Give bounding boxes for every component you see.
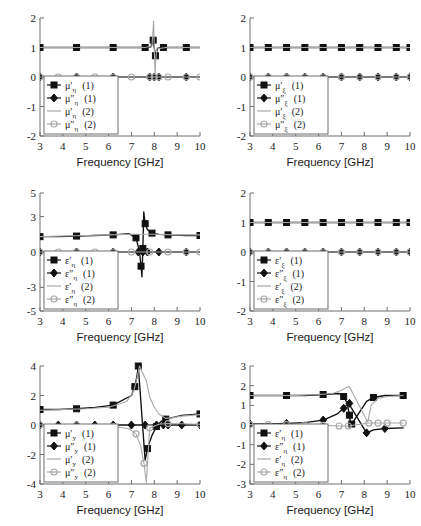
y-tick-label: -4 (27, 478, 37, 490)
y-tick-label: -1 (237, 101, 246, 113)
data-marker-square (370, 394, 376, 400)
data-marker-square (261, 82, 267, 88)
panel-2: 530-3-5345678910Frequency [GHz]ε′η(1)ε″η… (6, 183, 205, 351)
x-tick-label: 5 (293, 315, 299, 327)
y-tick-label: 2 (31, 12, 37, 24)
x-tick-label: 5 (83, 315, 89, 327)
y-tick-label: -2 (27, 130, 36, 142)
x-tick-label: 3 (247, 140, 253, 152)
y-tick-label: 5 (31, 187, 37, 199)
data-marker-square (341, 393, 347, 399)
y-tick-label: -1 (27, 101, 36, 113)
y-tick-label: 1 (241, 217, 247, 229)
data-marker-square (142, 221, 148, 227)
x-tick-label: 8 (362, 315, 368, 327)
x-axis-label: Frequency [GHz] (287, 504, 374, 516)
data-marker-diamond (128, 421, 135, 429)
data-marker-square (346, 412, 352, 418)
data-marker-square (150, 37, 156, 43)
panel-3: 210-1-2345678910Frequency [GHz]ε′ξ(1)ε″ξ… (216, 183, 415, 351)
x-tick-label: 3 (37, 140, 43, 152)
x-tick-label: 9 (174, 140, 180, 152)
data-marker-diamond (178, 421, 185, 429)
panel-eps-eta-mid-left: 530-3-5345678910Frequency [GHz]ε′η(1)ε″η… (6, 183, 205, 351)
data-marker-square (37, 407, 43, 413)
x-tick-label: 3 (37, 488, 43, 500)
x-tick-label: 4 (270, 140, 276, 152)
data-marker-square (138, 263, 144, 269)
x-tick-label: 7 (129, 140, 135, 152)
data-marker-square (144, 446, 150, 452)
y-tick-label: 1 (241, 42, 247, 54)
series-line (40, 366, 200, 418)
data-marker-square (261, 430, 267, 436)
panel-5: 3210-1-2-3345678910Frequency [GHz]ε′η(1)… (216, 356, 415, 524)
y-tick-label: 1 (31, 42, 37, 54)
x-tick-label: 10 (405, 315, 417, 327)
x-tick-label: 6 (316, 488, 322, 500)
x-tick-label: 9 (174, 488, 180, 500)
x-tick-label: 10 (405, 488, 417, 500)
y-tick-label: -2 (237, 130, 246, 142)
y-tick-label: 0 (31, 71, 37, 83)
x-tick-label: 4 (60, 140, 66, 152)
figure-root: 210-1-2345678910Frequency [GHz]μ′η(1)μ″η… (0, 0, 421, 526)
x-tick-label: 7 (129, 488, 135, 500)
y-tick-label: 2 (241, 187, 247, 199)
y-tick-label: 1 (241, 399, 247, 411)
data-marker-square (51, 430, 57, 436)
y-tick-label: 0 (241, 71, 247, 83)
y-tick-label: 0 (31, 246, 37, 258)
x-axis-label: Frequency [GHz] (77, 504, 164, 516)
x-tick-label: 6 (106, 315, 112, 327)
data-marker-square (51, 82, 57, 88)
x-tick-label: 10 (195, 488, 207, 500)
y-tick-label: -2 (237, 305, 246, 317)
y-tick-label: -2 (237, 458, 246, 470)
x-tick-label: 9 (384, 315, 390, 327)
y-tick-label: 2 (241, 380, 247, 392)
x-tick-label: 8 (152, 140, 158, 152)
data-marker-square (133, 235, 139, 241)
x-tick-label: 10 (405, 140, 417, 152)
x-tick-label: 7 (339, 140, 345, 152)
x-tick-label: 4 (60, 488, 66, 500)
panel-eps-xi-mid-right: 210-1-2345678910Frequency [GHz]ε′ξ(1)ε″ξ… (216, 183, 415, 351)
x-tick-label: 9 (174, 315, 180, 327)
x-tick-label: 9 (384, 140, 390, 152)
x-tick-label: 8 (152, 488, 158, 500)
panel-4: 420-2-4345678910Frequency [GHz]μ′y(1)μ″y… (6, 356, 205, 524)
y-tick-label: -5 (27, 305, 37, 317)
panel-mu-eta-top-left: 210-1-2345678910Frequency [GHz]μ′η(1)μ″η… (6, 8, 205, 176)
x-tick-label: 6 (316, 315, 322, 327)
x-tick-label: 4 (270, 488, 276, 500)
data-marker-square (149, 230, 155, 236)
series-line (40, 21, 200, 74)
x-tick-label: 9 (384, 488, 390, 500)
data-marker-square (197, 232, 203, 238)
y-tick-label: 0 (241, 419, 247, 431)
y-tick-label: 2 (31, 390, 37, 402)
y-tick-label: 3 (241, 360, 247, 372)
y-tick-label: 2 (241, 12, 247, 24)
x-axis-label: Frequency [GHz] (287, 156, 374, 168)
x-tick-label: 5 (293, 488, 299, 500)
x-tick-label: 8 (362, 488, 368, 500)
x-tick-label: 5 (83, 140, 89, 152)
x-tick-label: 7 (129, 315, 135, 327)
x-tick-label: 3 (247, 488, 253, 500)
x-tick-label: 5 (83, 488, 89, 500)
y-tick-label: 0 (31, 419, 37, 431)
data-marker-square (197, 411, 203, 417)
x-axis-label: Frequency [GHz] (77, 331, 164, 343)
panel-0: 210-1-2345678910Frequency [GHz]μ′η(1)μ″η… (6, 8, 205, 176)
x-tick-label: 5 (293, 140, 299, 152)
panel-eps-eta-bottom-right: 3210-1-2-3345678910Frequency [GHz]ε′η(1)… (216, 356, 415, 524)
y-tick-label: -3 (237, 478, 247, 490)
data-marker-square (261, 257, 267, 263)
x-tick-label: 7 (339, 488, 345, 500)
y-tick-label: -3 (27, 281, 37, 293)
x-tick-label: 10 (195, 140, 207, 152)
x-tick-label: 10 (195, 315, 207, 327)
x-tick-label: 6 (106, 140, 112, 152)
